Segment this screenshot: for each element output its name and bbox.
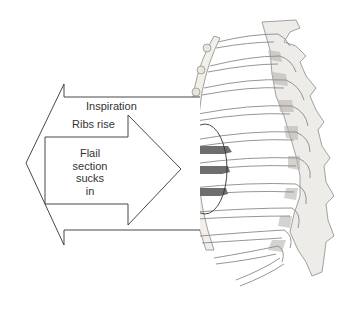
label-inspiration: Inspiration	[86, 100, 137, 113]
flail-line-1: Flail	[66, 147, 114, 160]
flail-line-3: sucks	[66, 172, 114, 185]
label-ribs-rise: Ribs rise	[72, 118, 115, 131]
flail-line-4: in	[66, 185, 114, 198]
label-flail-section: Flail section sucks in	[66, 147, 114, 198]
rib-cage-illustration	[0, 0, 350, 313]
flail-line-2: section	[66, 160, 114, 173]
